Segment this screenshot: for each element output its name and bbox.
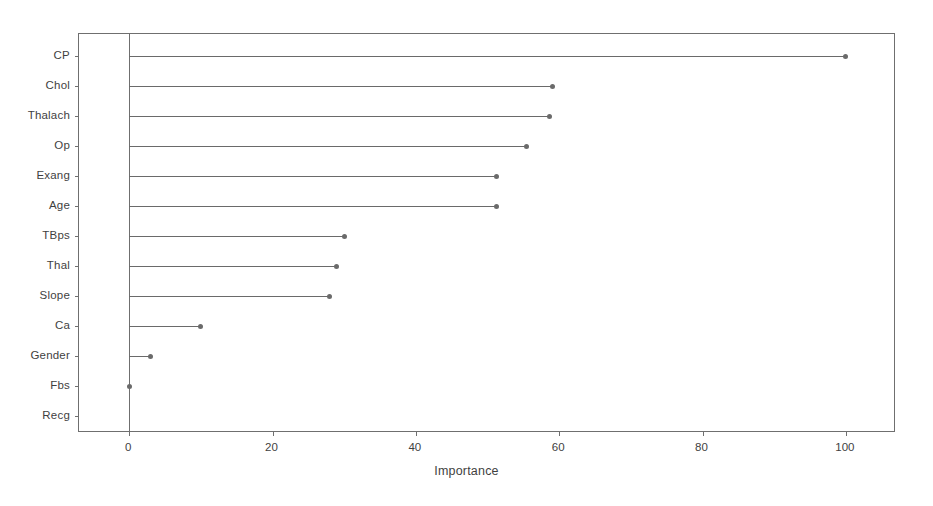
x-axis-ticklabel-80: 80 (695, 441, 708, 453)
plot-area (79, 34, 894, 431)
lollipop-marker[interactable] (198, 324, 203, 329)
y-axis-tick (75, 116, 79, 117)
lollipop-marker[interactable] (547, 114, 552, 119)
lollipop-stem (129, 56, 846, 57)
y-axis-tick (75, 386, 79, 387)
x-axis-ticklabel-0: 0 (125, 441, 131, 453)
y-axis-tick (75, 176, 79, 177)
lollipop-marker[interactable] (334, 264, 339, 269)
x-axis-tick (129, 431, 130, 436)
y-axis-ticklabel-op: Op (54, 139, 70, 151)
lollipop-stem (129, 86, 552, 87)
x-axis-ticklabel-60: 60 (552, 441, 565, 453)
y-axis-tick (75, 146, 79, 147)
y-axis-ticklabel-exang: Exang (36, 169, 70, 181)
y-axis-ticklabel-thalach: Thalach (28, 109, 70, 121)
y-axis-tick (75, 236, 79, 237)
y-axis-tick (75, 266, 79, 267)
x-axis-ticklabel-20: 20 (265, 441, 278, 453)
plot-frame (78, 33, 895, 432)
y-axis-ticklabel-gender: Gender (30, 349, 70, 361)
y-axis-ticklabel-ca: Ca (55, 319, 70, 331)
lollipop-marker[interactable] (494, 174, 499, 179)
y-axis-tick (75, 326, 79, 327)
lollipop-marker[interactable] (127, 384, 132, 389)
lollipop-marker[interactable] (524, 144, 529, 149)
x-axis-tick (416, 431, 417, 436)
y-axis-ticklabel-tbps: TBps (42, 229, 70, 241)
y-axis-ticklabel-recg: Recg (42, 409, 70, 421)
x-axis-title: Importance (0, 464, 933, 478)
x-axis-tick (703, 431, 704, 436)
y-axis-ticklabel-thal: Thal (47, 259, 70, 271)
y-axis-ticklabel-slope: Slope (40, 289, 70, 301)
x-axis-tick (273, 431, 274, 436)
lollipop-marker[interactable] (342, 234, 347, 239)
lollipop-stem (129, 326, 201, 327)
lollipop-stem (129, 146, 527, 147)
x-axis-tick (559, 431, 560, 436)
y-axis-ticklabel-cp: CP (54, 49, 70, 61)
y-axis-ticklabel-age: Age (49, 199, 70, 211)
y-axis-tick (75, 206, 79, 207)
lollipop-stem (129, 116, 550, 117)
y-axis-tick (75, 356, 79, 357)
lollipop-marker[interactable] (550, 84, 555, 89)
y-axis-tick (75, 296, 79, 297)
y-axis-ticklabel-fbs: Fbs (50, 379, 70, 391)
lollipop-stem (129, 236, 344, 237)
x-axis-tick (846, 431, 847, 436)
y-axis-tick (75, 416, 79, 417)
lollipop-stem (129, 206, 496, 207)
y-axis-tick (75, 86, 79, 87)
lollipop-stem (129, 296, 330, 297)
lollipop-marker[interactable] (148, 354, 153, 359)
lollipop-stem (129, 266, 336, 267)
y-axis-label-group: CPCholThalachOpExangAgeTBpsThalSlopeCaGe… (0, 33, 70, 432)
lollipop-marker[interactable] (494, 204, 499, 209)
x-axis-ticklabel-100: 100 (835, 441, 854, 453)
x-axis-ticklabel-40: 40 (408, 441, 421, 453)
zero-baseline (129, 34, 130, 431)
lollipop-marker[interactable] (843, 54, 848, 59)
importance-chart-figure: CPCholThalachOpExangAgeTBpsThalSlopeCaGe… (0, 0, 933, 506)
y-axis-tick (75, 56, 79, 57)
lollipop-stem (129, 176, 497, 177)
lollipop-marker[interactable] (327, 294, 332, 299)
y-axis-ticklabel-chol: Chol (46, 79, 70, 91)
